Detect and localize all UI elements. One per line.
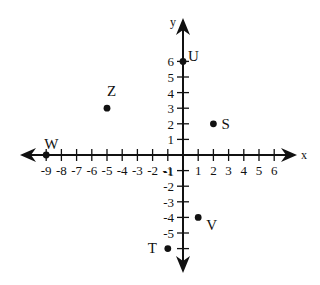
y-tick-label: -3 xyxy=(163,195,174,210)
data-point-w xyxy=(43,152,50,159)
data-point-t xyxy=(164,245,171,252)
y-tick-label: -2 xyxy=(163,179,174,194)
x-tick-label: -6 xyxy=(86,163,97,178)
y-axis-label: y xyxy=(170,15,176,29)
y-tick-label: 5 xyxy=(168,70,175,85)
point-label-w: W xyxy=(44,136,59,152)
point-label-u: U xyxy=(188,48,199,64)
x-tick-label: -9 xyxy=(41,163,52,178)
x-tick-label: 4 xyxy=(241,163,248,178)
x-tick-label: -2 xyxy=(147,163,158,178)
y-tick-label: -5 xyxy=(163,226,174,241)
y-tick-label: -1 xyxy=(163,164,174,179)
y-tick-label: 4 xyxy=(168,86,175,101)
y-tick-label: 1 xyxy=(168,132,175,147)
x-tick-label: -7 xyxy=(71,163,82,178)
point-label-v: V xyxy=(206,217,217,233)
ticks: -9-8-7-6-5-4-3-2-1123456-5-4-3-2-1123456 xyxy=(41,54,278,248)
y-tick-label: 6 xyxy=(168,54,175,69)
x-tick-label: -5 xyxy=(102,163,113,178)
axes xyxy=(20,18,297,273)
point-label-z: Z xyxy=(107,83,116,99)
y-tick-label: -4 xyxy=(163,210,174,225)
x-tick-label: -3 xyxy=(132,163,143,178)
data-point-u xyxy=(180,58,187,65)
x-axis-label: x xyxy=(301,148,307,162)
x-tick-label: 6 xyxy=(271,163,278,178)
data-point-s xyxy=(210,120,217,127)
data-point-v xyxy=(195,214,202,221)
coordinate-plane: -9-8-7-6-5-4-3-2-1123456-5-4-3-2-1123456… xyxy=(0,0,320,285)
y-tick-label: 2 xyxy=(168,117,175,132)
point-label-t: T xyxy=(148,240,157,256)
x-tick-label: 1 xyxy=(195,163,202,178)
x-tick-label: -8 xyxy=(56,163,67,178)
y-tick-label: 3 xyxy=(168,101,175,116)
x-tick-label: 2 xyxy=(210,163,217,178)
x-tick-label: 3 xyxy=(225,163,232,178)
data-points: UZSWVT xyxy=(43,48,230,255)
point-label-s: S xyxy=(221,116,229,132)
data-point-z xyxy=(104,105,111,112)
x-tick-label: -4 xyxy=(117,163,128,178)
x-tick-label: 5 xyxy=(256,163,263,178)
